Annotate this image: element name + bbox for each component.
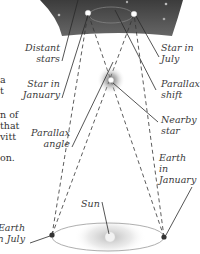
label-earth-in-january: Earth in January — [159, 152, 196, 185]
nearby-star — [108, 77, 113, 82]
distant-star-field — [40, 0, 200, 36]
body-text-fragment: t — [0, 85, 4, 96]
label-star-in-july: Star in July — [161, 42, 194, 64]
body-text-fragment: a — [0, 74, 6, 85]
body-text-fragment: n of — [0, 109, 18, 120]
body-text-fragment: vitt — [0, 131, 16, 142]
label-nearby-star: Nearby star — [161, 114, 197, 136]
star-in-july — [131, 11, 137, 17]
body-text-fragment: on. — [0, 152, 15, 163]
label-parallax-shift: Parallax shift — [161, 78, 200, 100]
star-in-january — [85, 10, 91, 16]
label-earth-in-july: Earth in July — [0, 222, 25, 244]
earth-in-july — [49, 232, 54, 237]
label-distant-stars: Distant stars — [25, 42, 60, 64]
label-star-in-january: Star in January — [23, 78, 60, 100]
sun — [105, 232, 115, 242]
label-parallax-angle: Parallax angle — [31, 127, 70, 149]
earth-in-january — [161, 234, 166, 239]
label-sun: Sun — [81, 198, 100, 209]
body-text-fragment: that — [0, 120, 19, 131]
